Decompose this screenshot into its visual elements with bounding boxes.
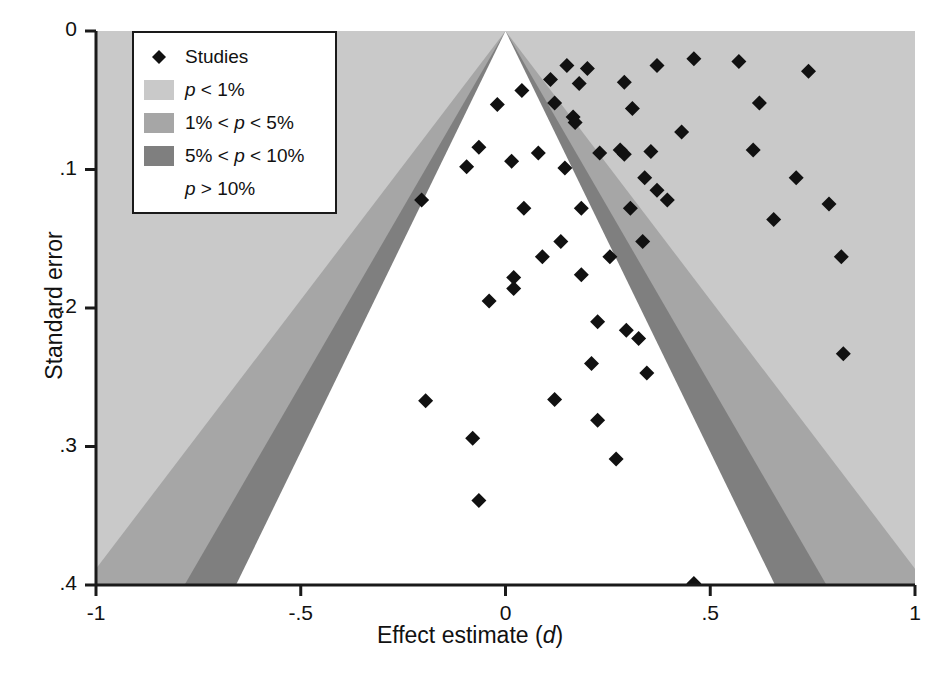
x-axis-title-italic: d [543,622,556,648]
legend-label: 5% < p < 10% [185,146,304,165]
y-tick-label: .1 [0,156,77,180]
y-tick-label: 0 [0,17,77,41]
x-tick-label: 1 [875,601,940,625]
legend-item: Studies [144,40,335,73]
legend-item: p < 1% [144,73,335,106]
legend-color-swatch [144,146,174,166]
x-tick-label: -.5 [261,601,341,625]
legend-label: Studies [185,47,248,66]
x-tick-label: 0 [466,601,546,625]
y-tick-label: .4 [0,571,77,595]
y-tick-label: .3 [0,433,77,457]
legend-item: 5% < p < 10% [144,139,335,172]
legend-label: p > 10% [185,179,255,198]
x-axis-title: Effect estimate (d) [0,622,940,649]
y-tick-label: .2 [0,294,77,318]
x-tick-label: .5 [670,601,750,625]
legend-item: 1% < p < 5% [144,106,335,139]
x-axis-title-text: Effect estimate ( [377,622,543,648]
x-tick-label: -1 [56,601,136,625]
funnel-plot-figure: Effect estimate (d) Standard error Studi… [0,0,940,677]
legend-item: p > 10% [144,172,335,205]
legend: Studiesp < 1%1% < p < 5%5% < p < 10%p > … [132,31,337,214]
legend-color-swatch [144,113,174,133]
legend-label: p < 1% [185,80,245,99]
x-axis-title-close: ) [555,622,563,648]
legend-color-swatch [144,80,174,100]
legend-empty-swatch [144,179,174,199]
legend-diamond-icon [144,49,174,65]
legend-label: 1% < p < 5% [185,113,294,132]
